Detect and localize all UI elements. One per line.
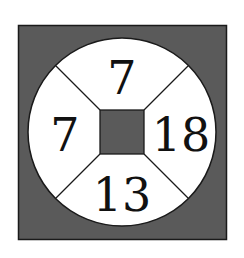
sector-right-number: 18 bbox=[152, 108, 211, 162]
sector-bottom-number: 13 bbox=[93, 168, 152, 222]
sector-left-number: 7 bbox=[50, 108, 79, 162]
sector-top-number: 7 bbox=[107, 51, 136, 105]
inner-square bbox=[100, 110, 144, 154]
sector-diagram: 7 7 18 13 bbox=[0, 0, 244, 258]
